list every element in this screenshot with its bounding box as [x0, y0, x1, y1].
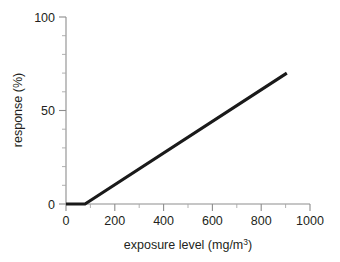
x-tick-label-600: 600 — [202, 214, 223, 228]
x-tick-label-0: 0 — [63, 214, 70, 228]
y-tick-label-0: 0 — [48, 198, 55, 212]
x-tick-label-400: 400 — [153, 214, 174, 228]
y-tick-label-100: 100 — [34, 11, 55, 25]
chart-figure: 0 50 100 0 200 400 600 800 1000 exposure… — [0, 0, 340, 262]
x-axis-minor-ticks — [90, 204, 285, 208]
x-axis-title: exposure level (mg/m3) — [124, 237, 252, 252]
y-axis-major-ticks — [59, 17, 66, 204]
y-tick-label-50: 50 — [41, 104, 55, 118]
x-axis-title-main: exposure level (mg/m — [124, 238, 244, 252]
x-tick-label-1000: 1000 — [296, 214, 324, 228]
dose-response-chart: 0 50 100 0 200 400 600 800 1000 exposure… — [0, 0, 340, 262]
x-tick-label-200: 200 — [104, 214, 125, 228]
x-axis-title-close: ) — [248, 238, 252, 252]
series-threshold-dose-response — [66, 73, 287, 204]
y-axis-title: response (%) — [11, 73, 25, 147]
x-tick-label-800: 800 — [251, 214, 272, 228]
